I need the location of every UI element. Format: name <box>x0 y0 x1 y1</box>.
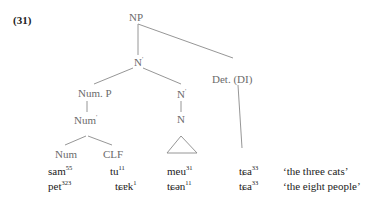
row1-det: tɕa33 <box>239 166 258 177</box>
row1-num: sam55 <box>48 166 72 177</box>
node-n-bar-right: N' <box>177 88 186 100</box>
branch-numbar-clf <box>88 136 112 145</box>
node-num-bar: Num' <box>74 114 97 126</box>
node-clf: CLF <box>103 149 123 160</box>
row1-gloss: ‘the three cats’ <box>283 166 348 177</box>
row2-noun: tɕən11 <box>167 181 192 192</box>
row2-gloss: ‘the eight people’ <box>283 181 361 192</box>
node-num: Num <box>55 149 77 160</box>
row1-noun: meu31 <box>167 166 192 177</box>
branch-det-word <box>238 85 242 148</box>
branch-nbar-nump <box>94 68 133 84</box>
node-np: NP <box>129 12 143 23</box>
row2-clf: tɕɐk1 <box>115 181 137 192</box>
node-num-p: Num. P <box>78 88 112 99</box>
row1-clf: tu11 <box>110 166 125 177</box>
branch-nbar-nbar2 <box>143 68 181 84</box>
node-n: N <box>177 114 185 125</box>
node-det: Det. (DI) <box>212 74 252 85</box>
node-n-bar-top: N' <box>134 56 143 68</box>
row2-num: pet323 <box>48 181 71 192</box>
row2-det: tɕa33 <box>239 181 258 192</box>
example-number: (31) <box>13 14 31 26</box>
branch-numbar-num <box>65 136 86 145</box>
branch-np-det <box>138 24 233 58</box>
triangle-icon <box>167 136 197 153</box>
